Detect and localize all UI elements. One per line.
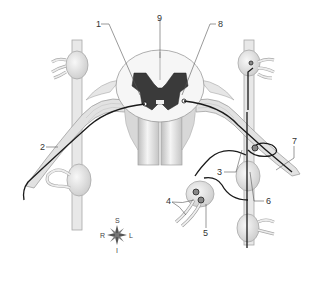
label-6: 6 <box>266 197 271 206</box>
label-1: 1 <box>96 20 101 29</box>
spinal-cord-diagram <box>0 0 317 281</box>
label-3: 3 <box>217 168 222 177</box>
compass-superior: S <box>115 217 120 224</box>
compass-rose <box>107 225 127 245</box>
compass-right: R <box>100 232 105 239</box>
label-9: 9 <box>157 14 162 23</box>
compass-left: L <box>129 232 133 239</box>
compass-inferior: I <box>116 247 118 254</box>
label-2: 2 <box>40 143 45 152</box>
label-7: 7 <box>292 137 297 146</box>
spinal-cord <box>116 50 204 165</box>
label-5: 5 <box>203 229 208 238</box>
label-4: 4 <box>166 197 171 206</box>
label-8: 8 <box>218 20 223 29</box>
